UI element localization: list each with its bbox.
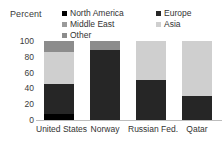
legend-item-label: Other — [70, 31, 91, 40]
legend-item-europe[interactable]: Europe — [156, 9, 191, 18]
legend-item-label: North America — [70, 9, 124, 18]
legend-swatch-icon — [156, 22, 161, 27]
bar-segment[interactable] — [136, 80, 166, 120]
x-axis-line — [36, 120, 222, 121]
bar-group[interactable] — [90, 41, 120, 120]
bar-segment[interactable] — [182, 96, 212, 120]
stacked-bar-chart: Percent North AmericaEuropeMiddle EastAs… — [0, 0, 224, 146]
chart-legend: North AmericaEuropeMiddle EastAsiaOther — [62, 9, 218, 41]
x-axis-category-label: Qatar — [174, 124, 220, 134]
y-axis-tick-label: 80 — [8, 53, 34, 61]
legend-item-middle-east[interactable]: Middle East — [62, 20, 114, 29]
bar-segment[interactable] — [90, 41, 120, 50]
bar-stack — [182, 41, 212, 120]
x-axis-category-label: Russian Fed. — [128, 124, 174, 134]
bar-segment[interactable] — [44, 52, 74, 84]
y-axis-tick-label: 100 — [8, 37, 34, 45]
plot-area — [36, 41, 220, 120]
bar-stack — [136, 41, 166, 120]
x-axis-category-label: Norway — [82, 124, 128, 134]
bar-segment[interactable] — [90, 50, 120, 120]
x-axis-category-labels: United StatesNorwayRussian Fed.Qatar — [36, 124, 222, 142]
legend-item-other[interactable]: Other — [62, 31, 91, 40]
bar-segment[interactable] — [136, 41, 166, 80]
y-axis-tick-label: 20 — [8, 100, 34, 108]
bar-segment[interactable] — [44, 84, 74, 114]
legend-swatch-icon — [62, 33, 67, 38]
y-axis-tick-label: 40 — [8, 84, 34, 92]
legend-item-label: Asia — [164, 20, 181, 29]
legend-swatch-icon — [62, 22, 67, 27]
y-axis-tick-label: 60 — [8, 69, 34, 77]
y-axis-tick-label: 0 — [8, 116, 34, 124]
bar-segment[interactable] — [182, 41, 212, 96]
bar-group[interactable] — [182, 41, 212, 120]
legend-swatch-icon — [62, 11, 67, 16]
legend-item-label: Europe — [164, 9, 191, 18]
legend-swatch-icon — [156, 11, 161, 16]
legend-item-label: Middle East — [70, 20, 114, 29]
bar-stack — [44, 41, 74, 120]
x-axis-category-label: United States — [36, 124, 82, 134]
legend-item-north-america[interactable]: North America — [62, 9, 124, 18]
bar-group[interactable] — [44, 41, 74, 120]
y-axis: 020406080100 — [4, 0, 34, 146]
bar-group[interactable] — [136, 41, 166, 120]
bar-segment[interactable] — [44, 41, 74, 52]
bar-stack — [90, 41, 120, 120]
legend-item-asia[interactable]: Asia — [156, 20, 181, 29]
